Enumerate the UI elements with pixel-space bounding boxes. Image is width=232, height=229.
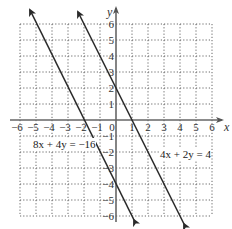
line-8x-4y-neg16 bbox=[30, 10, 134, 220]
svg-text:1: 1 bbox=[109, 98, 115, 110]
svg-text:5: 5 bbox=[193, 121, 199, 133]
svg-text:−1: −1 bbox=[91, 121, 103, 133]
svg-text:−4: −4 bbox=[43, 121, 55, 133]
svg-text:−3: −3 bbox=[59, 121, 71, 133]
svg-text:6: 6 bbox=[109, 18, 115, 30]
svg-text:4: 4 bbox=[177, 121, 183, 133]
line-4x-2y-4 bbox=[78, 12, 184, 224]
equation-label-1: 8x + 4y = −16 bbox=[33, 138, 96, 150]
svg-text:−6: −6 bbox=[11, 121, 23, 133]
svg-text:5: 5 bbox=[109, 34, 115, 46]
equation-label-2: 4x + 2y = 4 bbox=[160, 148, 211, 160]
svg-text:2: 2 bbox=[145, 121, 151, 133]
svg-text:−6: −6 bbox=[102, 210, 114, 222]
svg-text:−4: −4 bbox=[102, 178, 114, 190]
svg-text:6: 6 bbox=[209, 121, 215, 133]
svg-text:−5: −5 bbox=[27, 121, 39, 133]
svg-text:3: 3 bbox=[161, 121, 167, 133]
coordinate-plane: x y −6 −5 −4 −3 −2 −1 0 1 2 3 4 5 6 6 5 … bbox=[0, 0, 232, 229]
y-axis-label: y bbox=[106, 5, 113, 19]
svg-text:4: 4 bbox=[109, 50, 115, 62]
svg-text:−2: −2 bbox=[102, 146, 114, 158]
x-axis-label: x bbox=[223, 120, 230, 134]
svg-text:−1: −1 bbox=[102, 130, 114, 142]
svg-text:−5: −5 bbox=[102, 194, 114, 206]
